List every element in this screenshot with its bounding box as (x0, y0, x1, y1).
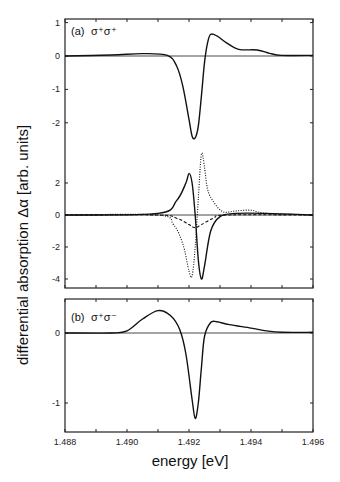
x-tick-label: 1.496 (302, 437, 325, 447)
data-curves (65, 34, 313, 419)
y-tick-label: 0 (55, 51, 60, 61)
x-axis-title: energy [eV] (152, 452, 229, 469)
series-solid (65, 311, 313, 419)
x-tick-label: 1.490 (116, 437, 139, 447)
panel-a-label: (a) (71, 25, 84, 37)
x-tick-label: 1.488 (54, 437, 77, 447)
y-axis-title: differential absorption Δα [arb. units] (14, 125, 31, 365)
y-tick-label: 0 (55, 210, 60, 220)
x-tick-label: 1.492 (178, 437, 201, 447)
panel-a-frame (65, 19, 313, 288)
y-tick-label: -2 (52, 118, 60, 128)
y-tick-label: 2 (55, 178, 60, 188)
y-tick-label: 1 (55, 18, 60, 28)
series-solid (65, 34, 313, 139)
x-tick-label: 1.494 (240, 437, 263, 447)
axis-ticks: 10-1-220-2-40-11.4881.4901.4921.4941.496 (52, 18, 324, 447)
y-tick-label: -1 (52, 84, 60, 94)
y-tick-label: -1 (52, 398, 60, 408)
y-tick-label: -4 (52, 274, 60, 284)
panel-a-polarization: σ⁺σ⁺ (91, 25, 117, 37)
series-dashed (65, 215, 313, 228)
panel-b-polarization: σ⁺σ⁻ (91, 311, 117, 323)
y-tick-label: 0 (55, 328, 60, 338)
panel-b-label: (b) (71, 311, 84, 323)
y-tick-label: -2 (52, 242, 60, 252)
series-solid (65, 173, 313, 279)
figure: 10-1-220-2-40-11.4881.4901.4921.4941.496… (0, 0, 340, 482)
